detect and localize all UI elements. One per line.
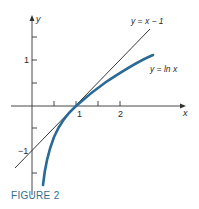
figure-caption: FIGURE 2 <box>11 190 60 201</box>
y-tick-label-neg1: −1 <box>18 146 28 156</box>
label-line: y = x − 1 <box>130 16 164 26</box>
axes <box>11 19 183 195</box>
x-ticks <box>54 101 120 106</box>
x-tick-label-2: 2 <box>118 109 123 119</box>
y-axis-label: y <box>35 14 41 24</box>
line-y-equals-x-minus-1 <box>15 29 150 168</box>
x-axis-label: x <box>182 108 188 118</box>
y-axis-arrow-icon <box>30 15 35 21</box>
figure-plot: 1 2 1 −1 y x y = x − 1 y = ln x <box>0 0 199 209</box>
y-tick-label-1: 1 <box>24 55 29 65</box>
label-curve: y = ln x <box>149 64 178 74</box>
x-tick-label-1: 1 <box>77 109 82 119</box>
y-ticks <box>32 37 37 173</box>
curve-y-equals-ln-x <box>43 55 153 185</box>
